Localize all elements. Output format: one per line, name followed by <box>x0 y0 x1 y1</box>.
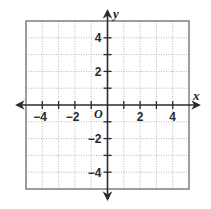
y-tick-label-neg2: −2 <box>88 132 102 146</box>
coordinate-plane: −4 −2 2 4 4 2 −2 −4 x y O <box>0 0 211 209</box>
x-tick-label-neg4: −4 <box>33 110 47 124</box>
origin-label: O <box>94 107 103 121</box>
y-tick-label-neg4: −4 <box>88 166 102 180</box>
y-tick-label-2: 2 <box>95 65 102 79</box>
y-axis-label: y <box>111 6 119 21</box>
x-tick-label-4: 4 <box>169 110 176 124</box>
x-axis-label: x <box>192 88 200 103</box>
x-tick-label-neg2: −2 <box>66 110 80 124</box>
y-tick-label-4: 4 <box>95 31 102 45</box>
x-tick-label-2: 2 <box>137 110 144 124</box>
